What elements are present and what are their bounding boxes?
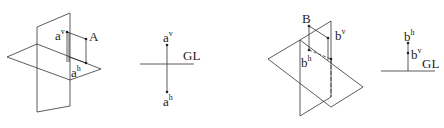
fig3-point-label: B	[302, 12, 311, 25]
fig2-gl-label: GL	[183, 49, 200, 62]
fig3-bv-label: bv	[335, 29, 346, 42]
fig1-ah-label: ah	[71, 66, 81, 79]
fig4-bv-label: bv	[411, 48, 422, 61]
diagram-canvas	[0, 0, 444, 128]
fig4-bh-label: bh	[404, 30, 415, 43]
fig3-bh-label: bh	[301, 56, 312, 69]
fig1-vertical-plane	[37, 13, 70, 112]
fig2-ah-label: ah	[163, 95, 173, 108]
fig2-av-label: av	[163, 31, 173, 44]
fig3-planes	[268, 21, 363, 116]
fig4-gl-label: GL	[422, 57, 439, 70]
fig3-horizontal-plane	[268, 40, 363, 107]
fig1-horizontal-plane	[7, 44, 101, 80]
fig1-point-label: A	[89, 30, 98, 43]
fig1-av-label: av	[55, 29, 65, 42]
